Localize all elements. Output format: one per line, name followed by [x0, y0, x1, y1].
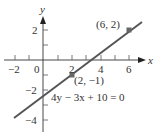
point-label-6-2: (6, 2)	[96, 18, 120, 31]
y-tick-label: −2	[25, 84, 37, 96]
y-tick-label: −4	[25, 114, 37, 126]
y-axis-label: y	[39, 3, 45, 15]
x-axis-label: x	[147, 54, 153, 66]
point-6-2	[127, 28, 132, 33]
x-tick-label: 0	[34, 63, 40, 75]
x-tick-label: 6	[126, 63, 132, 75]
y-ticks	[43, 30, 48, 120]
x-ticks	[15, 55, 129, 60]
x-axis-arrow-icon	[138, 57, 146, 63]
y-axis-arrow-icon	[40, 16, 46, 24]
y-tick-label: 2	[32, 24, 38, 36]
equation-label: 4y − 3x + 10 = 0	[51, 91, 125, 103]
line-chart: x y −2 0 2 4 6 2 −2 −4 (6, 2) (2, −1) 4y…	[0, 0, 159, 137]
x-tick-label: −2	[8, 63, 20, 75]
point-label-2-neg1: (2, −1)	[74, 74, 104, 87]
